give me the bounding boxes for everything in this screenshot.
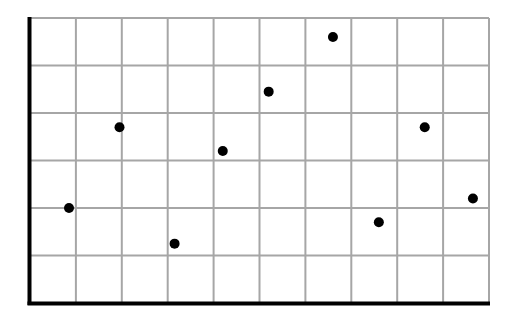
data-point xyxy=(420,122,430,132)
data-point xyxy=(170,239,180,249)
data-point xyxy=(218,146,228,156)
data-point xyxy=(374,217,384,227)
data-point xyxy=(468,194,478,204)
data-point xyxy=(328,32,338,42)
data-point xyxy=(264,87,274,97)
scatter-chart xyxy=(0,0,507,328)
data-point xyxy=(115,122,125,132)
data-point xyxy=(64,203,74,213)
plot-area xyxy=(0,0,507,328)
